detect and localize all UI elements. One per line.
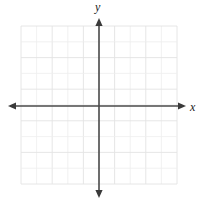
x-axis-arrow-right — [178, 102, 186, 109]
y-axis-label: y — [95, 1, 100, 13]
x-axis-arrow-left — [8, 102, 16, 109]
coordinate-plane-figure: y x — [0, 0, 202, 204]
y-axis — [95, 18, 102, 198]
x-axis-label: x — [190, 101, 195, 113]
y-axis-arrow-bottom — [95, 190, 102, 198]
coordinate-plane-svg — [0, 0, 202, 204]
x-axis — [8, 102, 186, 109]
y-axis-arrow-top — [95, 18, 102, 26]
